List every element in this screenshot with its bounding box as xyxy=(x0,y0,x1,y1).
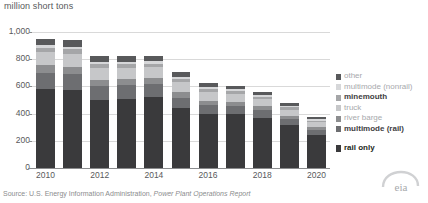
bar-2019[interactable] xyxy=(280,32,299,168)
bar-segment-truck[interactable] xyxy=(280,110,299,116)
bar-segment-rail-only[interactable] xyxy=(172,108,191,168)
bar-segment-rail-only[interactable] xyxy=(226,114,245,168)
bar-segment-river-barge[interactable] xyxy=(36,65,55,73)
bar-segment-multimode-rail[interactable] xyxy=(172,98,191,109)
bar-2014[interactable] xyxy=(144,32,163,168)
bar-segment-truck[interactable] xyxy=(90,68,109,79)
bar-segment-river-barge[interactable] xyxy=(253,106,272,110)
legend-swatch xyxy=(336,126,341,132)
bar-segment-minemouth[interactable] xyxy=(226,91,245,94)
bar-segment-river-barge[interactable] xyxy=(144,78,163,84)
bar-segment-multimode-nonrail[interactable] xyxy=(36,45,55,48)
bar-segment-other[interactable] xyxy=(253,92,272,95)
source-report: Power Plant Operations Report xyxy=(154,190,251,197)
bar-segment-multimode-rail[interactable] xyxy=(253,110,272,118)
bar-segment-river-barge[interactable] xyxy=(307,127,326,129)
bar-2011[interactable] xyxy=(63,32,82,168)
bar-segment-multimode-nonrail[interactable] xyxy=(144,61,163,63)
legend-swatch xyxy=(336,84,341,90)
bar-segment-other[interactable] xyxy=(226,86,245,90)
bar-segment-river-barge[interactable] xyxy=(117,79,136,85)
bar-2016[interactable] xyxy=(199,32,218,168)
bar-segment-multimode-rail[interactable] xyxy=(144,84,163,97)
bar-2013[interactable] xyxy=(117,32,136,168)
bar-segment-multimode-nonrail[interactable] xyxy=(280,106,299,107)
legend-swatch xyxy=(336,105,341,111)
bar-segment-other[interactable] xyxy=(199,83,218,87)
bar-group xyxy=(32,32,330,168)
bar-segment-rail-only[interactable] xyxy=(90,100,109,168)
bar-segment-multimode-rail[interactable] xyxy=(199,105,218,114)
bar-2012[interactable] xyxy=(90,32,109,168)
bar-segment-truck[interactable] xyxy=(63,54,82,67)
bar-segment-other[interactable] xyxy=(280,103,299,106)
bar-segment-river-barge[interactable] xyxy=(199,101,218,105)
bar-segment-multimode-nonrail[interactable] xyxy=(199,87,218,89)
y-tick-mark xyxy=(29,114,32,115)
bar-segment-other[interactable] xyxy=(90,56,109,62)
bar-segment-minemouth[interactable] xyxy=(199,89,218,92)
bar-segment-minemouth[interactable] xyxy=(280,107,299,109)
bar-segment-rail-only[interactable] xyxy=(280,125,299,168)
eia-logo: eia xyxy=(381,170,421,196)
bar-segment-multimode-rail[interactable] xyxy=(280,119,299,125)
bar-segment-truck[interactable] xyxy=(144,67,163,78)
y-tick-label: 1,000 xyxy=(0,26,30,36)
bar-segment-minemouth[interactable] xyxy=(90,64,109,68)
bar-segment-rail-only[interactable] xyxy=(117,99,136,168)
bar-segment-minemouth[interactable] xyxy=(307,121,326,123)
bar-2010[interactable] xyxy=(36,32,55,168)
bar-segment-other[interactable] xyxy=(172,72,191,77)
bar-segment-minemouth[interactable] xyxy=(144,64,163,68)
bar-2018[interactable] xyxy=(253,32,272,168)
bar-segment-multimode-rail[interactable] xyxy=(307,130,326,135)
bar-segment-minemouth[interactable] xyxy=(172,79,191,82)
bar-segment-truck[interactable] xyxy=(226,94,245,102)
chart-container: million short tons 02004006008001,000 20… xyxy=(0,0,428,203)
bar-segment-other[interactable] xyxy=(117,56,136,61)
bar-segment-river-barge[interactable] xyxy=(90,80,109,87)
bar-segment-minemouth[interactable] xyxy=(63,49,82,53)
bar-segment-multimode-rail[interactable] xyxy=(63,74,82,90)
bar-segment-multimode-nonrail[interactable] xyxy=(172,77,191,79)
bar-segment-other[interactable] xyxy=(63,40,82,46)
x-tick-label: 2010 xyxy=(30,170,62,180)
bar-segment-minemouth[interactable] xyxy=(117,64,136,68)
bar-segment-rail-only[interactable] xyxy=(63,90,82,168)
bar-segment-river-barge[interactable] xyxy=(280,116,299,119)
bar-segment-multimode-nonrail[interactable] xyxy=(253,95,272,97)
bar-segment-multimode-nonrail[interactable] xyxy=(307,119,326,120)
source-prefix: Source: U.S. Energy Information Administ… xyxy=(3,190,154,197)
bar-segment-truck[interactable] xyxy=(36,52,55,65)
legend-label: other xyxy=(344,71,362,80)
bar-segment-other[interactable] xyxy=(36,39,55,45)
bar-segment-minemouth[interactable] xyxy=(253,97,272,100)
bar-segment-rail-only[interactable] xyxy=(144,97,163,168)
bar-segment-multimode-rail[interactable] xyxy=(226,106,245,114)
bar-segment-truck[interactable] xyxy=(199,92,218,101)
bar-segment-truck[interactable] xyxy=(307,122,326,127)
bar-segment-multimode-nonrail[interactable] xyxy=(117,62,136,64)
bar-segment-multimode-rail[interactable] xyxy=(117,85,136,99)
bar-segment-other[interactable] xyxy=(144,56,163,61)
bar-segment-multimode-nonrail[interactable] xyxy=(90,62,109,65)
bar-segment-truck[interactable] xyxy=(253,99,272,106)
bar-2020[interactable] xyxy=(307,32,326,168)
bar-segment-multimode-nonrail[interactable] xyxy=(226,89,245,91)
bar-segment-river-barge[interactable] xyxy=(226,102,245,106)
bar-segment-multimode-nonrail[interactable] xyxy=(63,47,82,50)
bar-segment-multimode-rail[interactable] xyxy=(90,86,109,100)
bar-segment-truck[interactable] xyxy=(172,82,191,92)
bar-segment-minemouth[interactable] xyxy=(36,48,55,52)
bar-segment-rail-only[interactable] xyxy=(36,89,55,168)
bar-2017[interactable] xyxy=(226,32,245,168)
bar-segment-rail-only[interactable] xyxy=(253,118,272,168)
bar-segment-rail-only[interactable] xyxy=(199,114,218,168)
bar-segment-rail-only[interactable] xyxy=(307,135,326,168)
bar-segment-river-barge[interactable] xyxy=(63,67,82,75)
bar-segment-multimode-rail[interactable] xyxy=(36,73,55,89)
bar-segment-other[interactable] xyxy=(307,117,326,119)
bar-segment-river-barge[interactable] xyxy=(172,92,191,97)
bar-2015[interactable] xyxy=(172,32,191,168)
bar-segment-truck[interactable] xyxy=(117,68,136,79)
